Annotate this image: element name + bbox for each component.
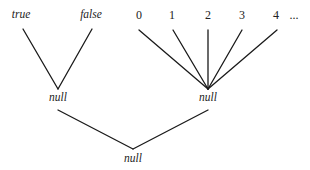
node-label-n2: 2 [205, 8, 211, 22]
node-label-n0: 0 [136, 8, 142, 22]
node-label-null_bottom: null [124, 152, 142, 164]
node-label-ellipsis: ... [290, 8, 299, 22]
edge-n0-to-null_int [139, 30, 208, 89]
edge-n4-to-null_int [208, 30, 277, 89]
nodes: truefalse01234...nullnullnull [12, 8, 299, 164]
node-label-n3: 3 [239, 8, 245, 22]
edge-null_bool-to-null_bottom [58, 110, 133, 149]
edge-true-to-null_bool [23, 29, 58, 89]
node-label-false: false [80, 8, 102, 21]
node-label-null_bool: null [49, 91, 67, 103]
node-label-true: true [12, 8, 31, 20]
node-label-n1: 1 [169, 8, 175, 22]
edge-null_int-to-null_bottom [133, 110, 208, 149]
node-label-null_int: null [199, 91, 217, 103]
edge-n1-to-null_int [173, 30, 208, 89]
lattice-diagram: truefalse01234...nullnullnull [0, 0, 310, 170]
edge-false-to-null_bool [58, 29, 92, 89]
node-label-n4: 4 [273, 8, 279, 22]
edges [23, 29, 277, 149]
edge-n3-to-null_int [208, 30, 242, 89]
